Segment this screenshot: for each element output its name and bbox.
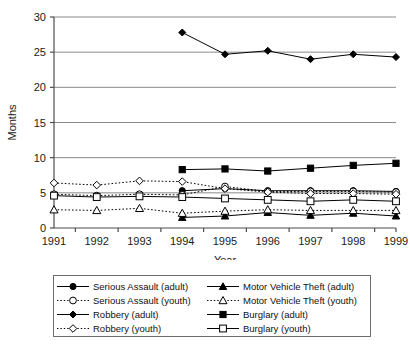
legend-marker-icon	[206, 281, 240, 292]
legend-item[interactable]: Serious Assault (adult)	[56, 279, 206, 293]
y-tick-label-30: 30	[34, 11, 46, 23]
data-point	[350, 196, 357, 203]
data-point	[93, 181, 101, 189]
data-point	[307, 56, 314, 63]
series-3	[179, 160, 399, 174]
x-tick-label-1994: 1994	[170, 235, 194, 247]
legend-label: Robbery (adult)	[93, 309, 158, 320]
series-6	[50, 204, 400, 216]
chart-legend: Serious Assault (adult)Motor Vehicle The…	[53, 275, 371, 337]
legend-label: Burglary (adult)	[243, 309, 308, 320]
legend-item[interactable]: Motor Vehicle Theft (youth)	[206, 293, 374, 307]
x-tick-label-1999: 1999	[384, 235, 408, 247]
legend-symbol	[70, 297, 77, 304]
data-point	[222, 195, 229, 202]
data-point	[51, 192, 58, 199]
data-point	[136, 193, 143, 200]
legend-marker-icon	[206, 309, 240, 320]
legend-item[interactable]: Burglary (youth)	[206, 321, 374, 335]
y-tick-label-10: 10	[34, 152, 46, 164]
legend-symbol	[220, 325, 227, 332]
legend-item[interactable]: Motor Vehicle Theft (adult)	[206, 279, 374, 293]
y-tick-label-25: 25	[34, 46, 46, 58]
chart-figure: 051015202530 199119921993199419951996199…	[0, 0, 410, 347]
x-tick-label-1991: 1991	[42, 235, 66, 247]
data-point	[50, 179, 58, 187]
x-tick-label-1992: 1992	[85, 235, 109, 247]
data-point	[307, 198, 314, 205]
legend-label: Serious Assault (adult)	[93, 281, 188, 292]
legend-item[interactable]: Robbery (adult)	[56, 307, 206, 321]
legend-marker-icon	[56, 281, 90, 292]
data-point	[264, 47, 271, 54]
y-tick-label-20: 20	[34, 81, 46, 93]
data-point	[179, 167, 185, 173]
series-line	[182, 213, 396, 218]
y-axis-tick-labels: 051015202530	[34, 11, 46, 234]
plot-area: 051015202530 199119921993199419951996199…	[0, 0, 410, 260]
data-point	[178, 209, 186, 216]
series-line	[182, 32, 396, 59]
legend-marker-icon	[56, 295, 90, 306]
data-point	[307, 165, 313, 171]
legend-item[interactable]: Serious Assault (youth)	[56, 293, 206, 307]
legend-marker-icon	[206, 295, 240, 306]
legend-label: Burglary (youth)	[243, 323, 311, 334]
legend-symbol	[220, 311, 226, 317]
x-tick-label-1993: 1993	[127, 235, 151, 247]
y-tick-label-15: 15	[34, 117, 46, 129]
series-1	[179, 29, 400, 63]
data-point	[136, 204, 144, 211]
data-point	[179, 194, 186, 201]
x-axis-title: Year	[214, 254, 237, 260]
y-tick-label-5: 5	[40, 187, 46, 199]
data-point	[393, 54, 400, 61]
x-tick-label-1996: 1996	[256, 235, 280, 247]
data-point	[93, 194, 100, 201]
series-line	[182, 163, 396, 171]
legend-marker-icon	[206, 323, 240, 334]
legend-label: Robbery (youth)	[93, 323, 161, 334]
legend-symbol	[219, 296, 227, 303]
series-line	[182, 189, 396, 192]
x-tick-label-1998: 1998	[341, 235, 365, 247]
legend-marker-icon	[56, 309, 90, 320]
data-point	[179, 29, 186, 36]
series-7	[51, 192, 400, 204]
x-tick-label-1995: 1995	[213, 235, 237, 247]
legend-marker-icon	[56, 323, 90, 334]
legend-item[interactable]: Robbery (youth)	[56, 321, 206, 335]
legend-label: Motor Vehicle Theft (youth)	[243, 295, 357, 306]
data-series-layer	[50, 29, 400, 220]
data-point	[178, 178, 186, 186]
legend-grid: Serious Assault (adult)Motor Vehicle The…	[54, 276, 370, 336]
legend-item[interactable]: Burglary (adult)	[206, 307, 374, 321]
x-tick-label-1997: 1997	[298, 235, 322, 247]
legend-label: Motor Vehicle Theft (adult)	[243, 281, 354, 292]
data-point	[136, 177, 144, 185]
y-axis-title: Months	[6, 104, 18, 141]
y-tick-label-0: 0	[40, 222, 46, 234]
data-point	[350, 162, 356, 168]
line-chart-svg: 051015202530 199119921993199419951996199…	[0, 0, 410, 260]
legend-label: Serious Assault (youth)	[93, 295, 191, 306]
data-point	[393, 198, 400, 205]
legend-symbol	[70, 311, 77, 318]
data-point	[222, 166, 228, 172]
x-axis-tick-labels: 199119921993199419951996199719981999	[42, 235, 408, 247]
legend-symbol	[69, 324, 77, 332]
data-point	[50, 206, 58, 213]
data-point	[393, 160, 399, 166]
data-point	[264, 196, 271, 203]
legend-symbol	[70, 283, 76, 289]
data-point	[265, 168, 271, 174]
